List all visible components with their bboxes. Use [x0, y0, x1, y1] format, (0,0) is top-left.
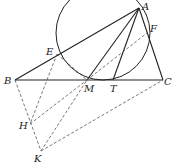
label-M: M: [83, 83, 95, 94]
label-T: T: [110, 83, 118, 94]
label-A: A: [141, 1, 149, 12]
label-E: E: [45, 46, 54, 57]
segment-AC: [139, 8, 163, 80]
segment-AT: [113, 8, 139, 80]
segment-BK: [15, 80, 41, 151]
segment-AB: [15, 8, 139, 80]
label-F: F: [149, 23, 158, 34]
geometry-diagram: A F E B C M T H K: [0, 0, 174, 164]
segment-KC: [41, 80, 163, 151]
label-B: B: [3, 75, 11, 86]
solid-lines: [15, 8, 163, 80]
point-labels: A F E B C M T H K: [3, 1, 172, 164]
label-C: C: [164, 76, 172, 87]
label-H: H: [18, 120, 28, 131]
segment-AM: [87, 8, 139, 80]
segment-EM: [57, 54, 87, 80]
label-K: K: [33, 153, 42, 164]
segment-MF: [87, 33, 147, 80]
segment-KM: [41, 80, 87, 151]
